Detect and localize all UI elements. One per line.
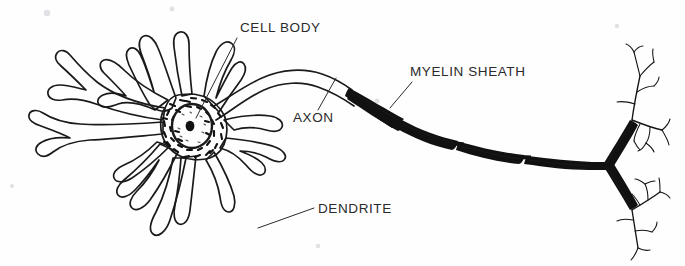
nucleolus	[186, 121, 195, 131]
terminal-twig	[634, 141, 640, 150]
terminal-twig	[654, 77, 659, 86]
scan-artifacts	[10, 7, 619, 249]
terminal-twig	[617, 219, 633, 221]
terminal-twig	[635, 230, 652, 232]
terminal-twig	[660, 192, 670, 198]
label-dendrite: DENDRITE	[318, 201, 392, 216]
terminal-twig	[626, 44, 634, 52]
dendrite-branch	[224, 115, 282, 131]
myelin-sheath-group	[345, 88, 606, 170]
terminal-twig	[634, 52, 640, 76]
terminal-twig	[646, 127, 650, 143]
terminal-twig	[662, 130, 669, 145]
terminal-twig	[640, 62, 654, 76]
dendrite-branch	[114, 142, 170, 182]
terminal-twig	[645, 181, 655, 184]
terminal-twig	[634, 46, 643, 52]
dendrite-branch	[206, 152, 235, 212]
myelin-segment	[589, 162, 606, 170]
terminal-twig	[631, 248, 638, 260]
dendrite-branch	[174, 32, 192, 96]
leader-line-myelin-sheath	[390, 82, 412, 108]
terminal-twig	[632, 192, 660, 210]
label-myelin-sheath: MYELIN SHEATH	[410, 64, 526, 79]
terminal-twig	[652, 222, 657, 232]
dendrite-branch	[98, 60, 168, 110]
terminal-twig	[635, 179, 645, 184]
terminal-twig	[645, 184, 648, 200]
terminal-twig	[659, 178, 660, 192]
neuron-diagram-figure: CELL BODY AXON MYELIN SHEATH DENDRITE	[0, 0, 685, 266]
terminal-twig	[617, 102, 635, 104]
leader-line-dendrite	[258, 208, 314, 228]
neuron-illustration: CELL BODY AXON MYELIN SHEATH DENDRITE	[0, 0, 685, 266]
terminal-twig	[653, 49, 654, 62]
terminal-twig	[637, 86, 654, 92]
dendrite-branch	[220, 138, 285, 175]
myelin-segment	[524, 156, 592, 170]
label-axon: AXON	[293, 110, 334, 125]
terminal-twig	[646, 143, 654, 152]
terminal-twig	[632, 210, 638, 248]
terminal-twig	[632, 76, 640, 120]
dendrite-branch	[204, 42, 245, 112]
dendrite-group	[29, 32, 286, 235]
terminal-branch-upper	[604, 120, 638, 169]
label-cell-body: CELL BODY	[240, 20, 321, 35]
terminal-branch-lower	[604, 161, 638, 210]
terminal-twig	[662, 119, 670, 130]
terminal-twig	[638, 248, 650, 250]
dendrite-branch	[48, 51, 165, 120]
axon-terminal-fork	[604, 120, 638, 210]
